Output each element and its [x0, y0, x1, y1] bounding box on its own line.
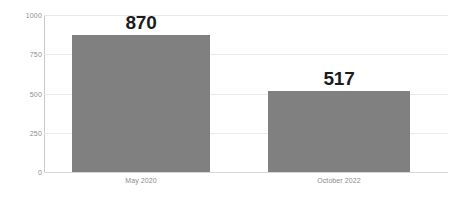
data-label-may-2020: 870: [72, 13, 210, 32]
data-label-october-2022: 517: [268, 69, 410, 88]
y-axis-tick-labels: 1000 750 500 250 0: [0, 15, 42, 172]
plot-area: [44, 15, 448, 172]
bar-may-2020[interactable]: [72, 35, 210, 172]
y-tick-label-500: 500: [4, 90, 42, 97]
y-tick-label-1000: 1000: [4, 12, 42, 19]
y-tick-label-250: 250: [4, 129, 42, 136]
gridline-baseline-0: [44, 172, 448, 173]
bar-chart: 1000 750 500 250 0 870 517 May 2020 Octo…: [0, 0, 463, 202]
bar-october-2022[interactable]: [268, 91, 410, 172]
category-label-october-2022: October 2022: [268, 177, 410, 185]
y-tick-label-0: 0: [4, 169, 42, 176]
y-tick-label-750: 750: [4, 51, 42, 58]
category-label-may-2020: May 2020: [72, 177, 210, 185]
